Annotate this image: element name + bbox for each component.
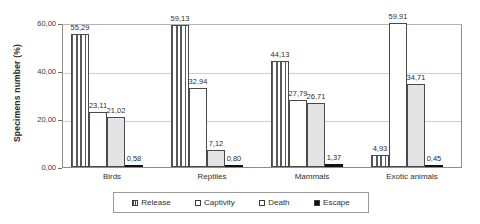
legend-label: Release <box>141 198 170 207</box>
bar-value-label: 23,11 <box>89 101 107 110</box>
bar-death-birds: 21,02 <box>107 117 125 167</box>
legend-item-escape[interactable]: Escape <box>314 198 350 207</box>
bar-group: 44,1327,7926,711,37 <box>271 23 343 167</box>
bar-value-label: 27,79 <box>289 89 308 98</box>
bar-value-label: 0,58 <box>127 154 142 163</box>
legend-swatch-captivity-icon <box>195 200 201 206</box>
y-axis-tick-label: 0,00 <box>20 163 56 172</box>
bar-release-birds: 55,29 <box>71 34 89 167</box>
bar-value-label: 21,02 <box>107 106 126 115</box>
bar-value-label: 0,80 <box>227 154 242 163</box>
y-axis-tick-mark <box>58 168 62 169</box>
bar-value-label: 34,71 <box>407 73 426 82</box>
y-axis-title: Specimens number (%) <box>12 18 22 168</box>
plot-area: 55,2923,1121,020,5859,1332,947,120,8044,… <box>62 24 462 168</box>
legend-item-release[interactable]: Release <box>132 198 170 207</box>
category-label-reptiles: Reptiles <box>162 172 262 181</box>
bar-captivity-birds: 23,11 <box>89 112 107 167</box>
legend-label: Captivity <box>204 198 235 207</box>
bar-chart: Specimens number (%) 60,0040,0020,000,00… <box>0 0 480 224</box>
bar-value-label: 26,71 <box>307 92 326 101</box>
bar-captivity-reptiles: 32,94 <box>189 88 207 167</box>
legend-item-death[interactable]: Death <box>259 198 289 207</box>
category-label-exotic-animals: Exotic animals <box>362 172 462 181</box>
bar-value-label: 55,29 <box>71 23 90 32</box>
legend-label: Death <box>268 198 289 207</box>
y-axis-tick-label: 40,00 <box>20 67 56 76</box>
legend-swatch-death-icon <box>259 200 265 206</box>
bar-group: 4,9359,9134,710,45 <box>371 23 443 167</box>
bar-value-label: 32,94 <box>189 77 208 86</box>
bar-value-label: 59,13 <box>171 14 190 23</box>
category-label-mammals: Mammals <box>262 172 362 181</box>
bar-release-exotic-animals: 4,93 <box>371 155 389 167</box>
bar-release-reptiles: 59,13 <box>171 25 189 167</box>
bar-captivity-exotic-animals: 59,91 <box>389 23 407 167</box>
legend-swatch-escape-icon <box>314 200 320 206</box>
bar-escape-birds: 0,58 <box>125 165 143 168</box>
bar-group: 55,2923,1121,020,58 <box>71 23 143 167</box>
bar-death-mammals: 26,71 <box>307 103 325 167</box>
bar-escape-reptiles: 0,80 <box>225 165 243 168</box>
bar-value-label: 4,93 <box>373 144 388 153</box>
legend-label: Escape <box>323 198 350 207</box>
bar-death-exotic-animals: 34,71 <box>407 84 425 167</box>
bar-value-label: 59,91 <box>389 12 408 21</box>
legend-swatch-release-icon <box>132 200 138 206</box>
legend-item-captivity[interactable]: Captivity <box>195 198 235 207</box>
chart-legend: ReleaseCaptivityDeathEscape <box>113 192 369 213</box>
bar-captivity-mammals: 27,79 <box>289 100 307 167</box>
bar-death-reptiles: 7,12 <box>207 150 225 167</box>
bar-escape-mammals: 1,37 <box>325 164 343 167</box>
y-axis-tick-label: 60,00 <box>20 19 56 28</box>
bar-escape-exotic-animals: 0,45 <box>425 165 443 168</box>
y-axis-tick-label: 20,00 <box>20 115 56 124</box>
bar-value-label: 7,12 <box>209 139 224 148</box>
bar-value-label: 0,45 <box>427 154 442 163</box>
bar-release-mammals: 44,13 <box>271 61 289 167</box>
category-label-birds: Birds <box>62 172 162 181</box>
bar-group: 59,1332,947,120,80 <box>171 23 243 167</box>
bar-value-label: 44,13 <box>271 50 290 59</box>
bar-value-label: 1,37 <box>327 153 342 162</box>
